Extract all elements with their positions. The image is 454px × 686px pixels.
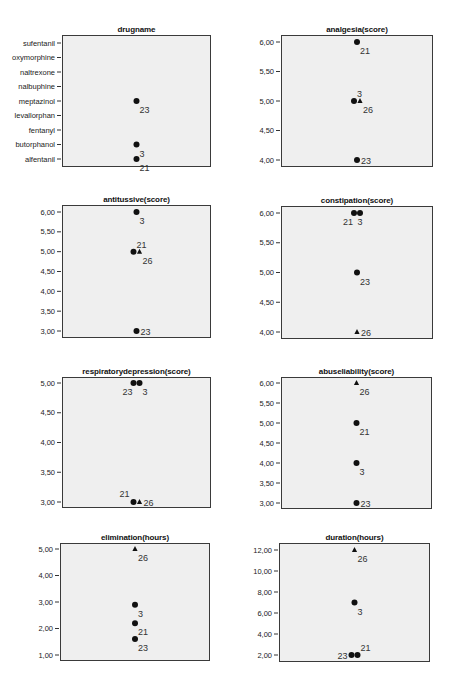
y-tick-label: 3,50: [40, 307, 55, 316]
circle-marker-icon: [352, 600, 358, 606]
y-tick-label: 5,50: [40, 227, 55, 236]
y-tick-label: nalbuphine: [18, 82, 55, 91]
circle-marker-icon: [354, 420, 360, 426]
y-tick-label: 8,00: [257, 588, 272, 597]
chart-title: constipation(score): [271, 196, 443, 205]
chart-abuse-liability: abuseliability(score) 6,005,505,004,504,…: [281, 377, 432, 509]
point-case-label: 23: [360, 277, 370, 287]
chart-title: antitussive(score): [52, 195, 221, 204]
y-tick-label: 6,00: [259, 209, 274, 218]
circle-marker-icon: [134, 209, 140, 215]
y-tick-label: 4,00: [259, 156, 274, 165]
y-tick-label: 4,50: [259, 439, 274, 448]
y-tick-label: 5,50: [259, 67, 274, 76]
point-case-label: 3: [358, 607, 363, 617]
y-tick-label: 5,00: [40, 379, 55, 388]
y-tick-label: 4,00: [259, 328, 274, 337]
plot-svg: 6,005,505,004,504,002132326: [281, 206, 433, 339]
triangle-marker-icon: [137, 499, 142, 504]
point-case-label: 26: [358, 554, 368, 564]
plot-svg: 5,004,003,002,001,002632123: [60, 543, 210, 661]
circle-marker-icon: [132, 602, 138, 608]
point-case-label: 21: [140, 163, 150, 173]
y-tick-label: 4,50: [259, 298, 274, 307]
y-tick-label: 4,00: [257, 630, 272, 639]
triangle-marker-icon: [354, 329, 359, 334]
plot-svg: 6,005,505,004,504,003,503,003212623: [62, 205, 211, 338]
triangle-marker-icon: [352, 547, 357, 552]
y-tick-label: 3,00: [259, 499, 274, 508]
y-tick-label: 1,00: [38, 651, 53, 660]
circle-marker-icon: [354, 39, 360, 45]
chart-analgesia: analgesia(score) 6,005,505,004,504,00213…: [281, 35, 433, 167]
y-tick-label: 4,00: [259, 459, 274, 468]
circle-marker-icon: [137, 380, 143, 386]
point-case-label: 23: [141, 327, 151, 337]
point-case-label: 21: [138, 627, 148, 637]
y-tick-label: 3,00: [38, 598, 53, 607]
point-case-label: 21: [119, 489, 129, 499]
point-case-label: 26: [144, 498, 154, 508]
circle-marker-icon: [131, 380, 137, 386]
point-case-label: 3: [138, 609, 143, 619]
chart-title: respiratorydepression(score): [52, 367, 221, 376]
y-tick-label: 4,00: [40, 287, 55, 296]
point-case-label: 23: [140, 105, 150, 115]
chart-duration: duration(hours) 12,0010,008,006,004,002,…: [279, 543, 430, 662]
chart-drugname: drugname alfentanilbutorphanolfentanylle…: [62, 35, 211, 167]
point-case-label: 26: [361, 328, 371, 338]
y-tick-label: 4,00: [40, 438, 55, 447]
plot-svg: 6,005,505,004,504,003,503,002621323: [281, 377, 432, 509]
y-tick-label: 6,00: [259, 38, 274, 47]
chart-title: elimination(hours): [50, 533, 220, 542]
y-tick-label: 4,50: [40, 267, 55, 276]
y-tick-label: 6,00: [40, 208, 55, 217]
circle-marker-icon: [134, 328, 140, 334]
y-tick-label: 6,00: [259, 379, 274, 388]
chart-title: abuseliability(score): [271, 367, 442, 376]
plot-svg: alfentanilbutorphanolfentanyllevallorpha…: [62, 35, 211, 167]
chart-constipation: constipation(score) 6,005,505,004,504,00…: [281, 206, 433, 339]
circle-marker-icon: [354, 460, 360, 466]
chart-title: drugname: [52, 25, 221, 34]
point-case-label: 3: [357, 217, 362, 227]
y-tick-label: 5,00: [38, 545, 53, 554]
point-case-label: 21: [343, 217, 353, 227]
point-case-label: 3: [143, 387, 148, 397]
y-tick-label: 5,00: [259, 419, 274, 428]
circle-marker-icon: [134, 156, 140, 162]
point-case-label: 21: [361, 643, 371, 653]
y-tick-label: 5,00: [40, 247, 55, 256]
chart-antitussive: antitussive(score) 6,005,505,004,504,003…: [62, 205, 211, 338]
triangle-marker-icon: [354, 380, 359, 385]
point-case-label: 26: [143, 256, 153, 266]
y-tick-label: alfentanil: [25, 155, 55, 164]
point-case-label: 3: [140, 216, 145, 226]
plot-svg: 12,0010,008,006,004,002,002632321: [279, 543, 430, 662]
y-tick-label: butorphanol: [15, 140, 55, 149]
chart-elimination: elimination(hours) 5,004,003,002,001,002…: [60, 543, 210, 661]
y-tick-label: meptazinol: [19, 97, 56, 106]
point-case-label: 26: [138, 553, 148, 563]
point-case-label: 23: [361, 499, 371, 509]
chart-respiratory-depression: respiratorydepression(score) 5,004,504,0…: [62, 377, 211, 508]
y-tick-label: 10,00: [253, 567, 272, 576]
y-tick-label: 2,00: [257, 651, 272, 660]
circle-marker-icon: [354, 157, 360, 163]
circle-marker-icon: [134, 98, 140, 104]
plot-svg: 6,005,505,004,504,002132623: [281, 35, 433, 167]
y-tick-label: 5,50: [259, 399, 274, 408]
triangle-marker-icon: [132, 546, 137, 551]
point-case-label: 3: [360, 467, 365, 477]
y-tick-label: 5,00: [259, 97, 274, 106]
y-tick-label: 3,00: [40, 327, 55, 336]
circle-marker-icon: [351, 210, 357, 216]
y-tick-label: 3,50: [40, 468, 55, 477]
circle-marker-icon: [134, 142, 140, 148]
y-tick-label: 4,50: [259, 126, 274, 135]
y-tick-label: 6,00: [257, 609, 272, 618]
y-tick-label: sufentanil: [23, 39, 55, 48]
circle-marker-icon: [354, 270, 360, 276]
chart-title: analgesia(score): [271, 25, 443, 34]
y-tick-label: 12,00: [253, 546, 272, 555]
